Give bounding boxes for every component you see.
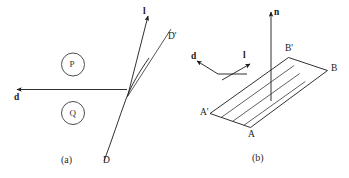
panel-a-graphics (17, 16, 171, 161)
label-vertex-b: B (331, 64, 337, 74)
label-vector-l-panel-b: l (243, 51, 246, 61)
label-node-p: P (70, 60, 75, 69)
caption-panel-a: (a) (61, 155, 72, 165)
label-vector-n: n (274, 8, 279, 18)
parallelogram-outline (210, 58, 328, 128)
label-vertex-a: A (248, 130, 255, 140)
label-node-q: Q (70, 109, 77, 118)
panel-b-graphics (197, 12, 328, 170)
figure-canvas (0, 0, 349, 178)
caption-panel-b: (b) (252, 153, 264, 163)
hatching-group (216, 66, 328, 170)
label-curve-d: D (103, 156, 110, 166)
label-vertex-a-prime: A' (200, 108, 209, 118)
label-vector-d-panel-b: d (191, 52, 196, 62)
label-vector-l-panel-a: l (143, 7, 146, 17)
vector-d-arrow-panel-b (197, 61, 247, 74)
label-vector-d-panel-a: d (14, 93, 19, 103)
label-curve-d-prime: D' (168, 32, 177, 42)
ray-d-prime-panel-a (128, 29, 172, 97)
vector-l-arrow-panel-a (128, 16, 149, 97)
figure-root: l D' d P Q D (a) n d l B' B A' A (b) (0, 0, 349, 178)
vector-l-arrow-panel-b (222, 64, 250, 80)
label-vertex-b-prime: B' (285, 44, 293, 54)
